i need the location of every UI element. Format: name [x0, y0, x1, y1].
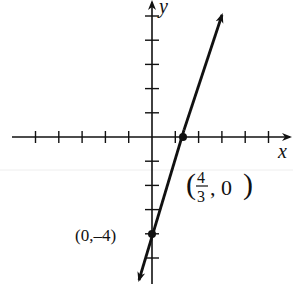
x-intercept-label: ( 4 3 , 0 ) — [186, 167, 253, 205]
y-axis-label: y — [157, 0, 168, 18]
x-axis-label: x — [277, 140, 287, 162]
line-graph: x y (0,–4) ( 4 3 , 0 ) — [0, 0, 293, 285]
x-intercept-rest: , 0 — [210, 175, 232, 200]
y-intercept-point — [148, 230, 156, 238]
x-intercept-point — [179, 133, 187, 141]
line-lower — [139, 130, 184, 280]
paren-open: ( — [186, 167, 196, 201]
fraction-numerator: 4 — [197, 169, 205, 186]
fraction-denominator: 3 — [197, 188, 205, 205]
y-axis: y — [145, 0, 168, 284]
x-axis: x — [12, 131, 290, 162]
y-intercept-label: (0,–4) — [75, 226, 116, 245]
line-upper — [184, 15, 222, 130]
paren-close: ) — [243, 167, 253, 201]
